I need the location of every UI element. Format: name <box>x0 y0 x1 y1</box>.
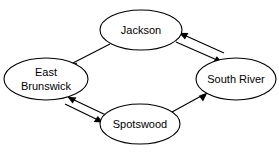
edge-spotswood-to-south-river <box>172 93 208 113</box>
node-spotswood[interactable]: Spotswood <box>100 104 180 144</box>
edge-line-jackson-to-south-river <box>176 42 217 60</box>
node-south-river-ellipse[interactable] <box>196 58 276 100</box>
graph-diagram: Jackson East Brunswick South River Spots… <box>0 0 279 152</box>
diagram-svg: Jackson East Brunswick South River Spots… <box>0 0 279 152</box>
node-jackson[interactable]: Jackson <box>100 10 182 50</box>
edge-line-spotswood-south-river <box>172 95 203 112</box>
edge-line-jackson-east-brunswick <box>71 44 110 64</box>
node-spotswood-ellipse[interactable] <box>100 104 180 144</box>
arrowhead-into-south-river-bottom <box>199 93 208 102</box>
node-south-river[interactable]: South River <box>196 58 276 100</box>
node-east-brunswick[interactable]: East Brunswick <box>4 58 88 100</box>
edge-line-east-brunswick-to-spotswood <box>65 104 98 120</box>
edge-line-spotswood-to-east-brunswick <box>72 99 108 116</box>
edge-jackson-south-river <box>176 33 224 63</box>
nodes-layer: Jackson East Brunswick South River Spots… <box>4 10 276 144</box>
node-jackson-ellipse[interactable] <box>100 10 182 50</box>
node-east-brunswick-ellipse[interactable] <box>4 58 88 100</box>
edge-line-south-river-to-jackson <box>184 35 224 53</box>
